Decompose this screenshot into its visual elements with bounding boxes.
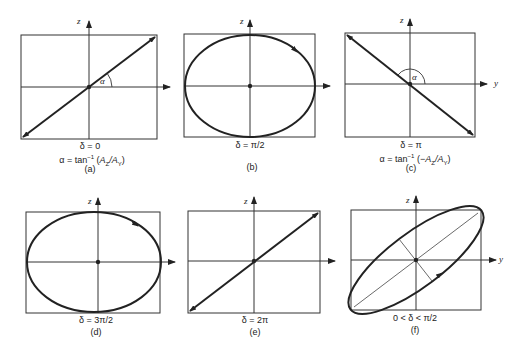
- panel-b-label: (b): [247, 162, 258, 173]
- origin-dot: [408, 82, 412, 86]
- formula-close: ): [122, 155, 125, 165]
- panel-e-condition: δ = 2π: [242, 315, 268, 326]
- z-axis-label: z: [400, 15, 404, 25]
- panel-a: [21, 21, 170, 139]
- origin-dot: [248, 84, 252, 88]
- polarization-figure: [0, 0, 518, 357]
- z-axis-label: z: [77, 16, 81, 26]
- panel-f-label: (f): [411, 325, 420, 336]
- alpha-angle-label: α: [412, 72, 417, 82]
- panel-c-label: (c): [406, 163, 417, 174]
- y-axis-label: y: [499, 254, 503, 264]
- panel-c-condition: δ = π: [400, 140, 421, 151]
- panel-e-label: (e): [250, 327, 261, 338]
- formula-b: /A: [109, 155, 118, 165]
- origin-dot: [252, 259, 256, 263]
- panel-a-condition: δ = 0: [80, 141, 100, 152]
- formula-prefix: α = tan: [380, 154, 408, 164]
- panel-d: [26, 198, 175, 313]
- z-axis-label: z: [406, 195, 410, 205]
- panel-b: [184, 20, 330, 137]
- origin-dot: [87, 85, 91, 89]
- z-axis-label: z: [244, 196, 248, 206]
- z-axis-label: z: [240, 16, 244, 26]
- formula-b: /A: [435, 154, 444, 164]
- formula-prefix: α = tan: [59, 155, 87, 165]
- panel-f: [334, 189, 497, 331]
- panel-e: [188, 197, 335, 313]
- alpha-angle-label: α: [100, 76, 105, 86]
- origin-dot: [96, 260, 100, 264]
- panel-a-label: (a): [85, 164, 96, 175]
- panel-b-condition: δ = π/2: [236, 140, 265, 151]
- z-axis-label: z: [88, 196, 92, 206]
- angle-alpha-arc: [107, 73, 112, 87]
- formula-open: (−: [417, 154, 425, 164]
- origin-dot: [414, 258, 418, 262]
- formula-exponent: −1: [408, 153, 415, 159]
- panel-d-label: (d): [91, 327, 102, 338]
- formula-close: ): [447, 154, 450, 164]
- formula-exponent: −1: [87, 154, 94, 160]
- panel-d-condition: δ = 3π/2: [79, 315, 113, 326]
- panel-f-condition: 0 < δ < π/2: [393, 313, 437, 324]
- y-axis-label: y: [494, 78, 498, 88]
